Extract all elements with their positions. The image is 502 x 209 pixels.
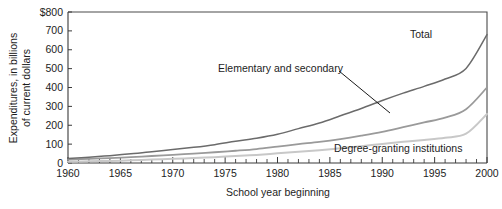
x-tick-label: 1990 bbox=[371, 167, 395, 179]
annotation-label: Degree-granting institutions bbox=[334, 142, 462, 154]
y-axis-title-line2: of current dollars bbox=[20, 49, 32, 127]
x-tick-label: 1980 bbox=[266, 167, 290, 179]
x-tick-label: 2000 bbox=[475, 167, 499, 179]
y-axis-ticks bbox=[68, 12, 72, 163]
expenditures-line-chart: 0100200300400500600700$800 1960196519701… bbox=[0, 0, 502, 209]
x-tick-label: 1970 bbox=[161, 167, 185, 179]
y-tick-label: 200 bbox=[45, 119, 63, 131]
y-tick-label: 400 bbox=[45, 81, 63, 93]
series-line-degree-granting-institutions bbox=[68, 114, 487, 162]
y-tick-labels: 0100200300400500600700$800 bbox=[40, 6, 64, 169]
x-tick-label: 1960 bbox=[56, 167, 80, 179]
x-tick-label: 1965 bbox=[109, 167, 133, 179]
y-tick-label: 700 bbox=[45, 24, 63, 36]
y-tick-label: 600 bbox=[45, 43, 63, 55]
y-tick-label: $800 bbox=[40, 6, 64, 18]
y-tick-label: 500 bbox=[45, 62, 63, 74]
annotation-label: Total bbox=[410, 28, 432, 40]
x-tick-label: 1985 bbox=[318, 167, 342, 179]
x-tick-label: 1975 bbox=[213, 167, 237, 179]
y-tick-label: 300 bbox=[45, 100, 63, 112]
x-axis-title: School year beginning bbox=[226, 186, 330, 198]
x-tick-labels: 196019651970197519801985199019952000 bbox=[56, 167, 499, 179]
series-annotations: TotalElementary and secondaryDegree-gran… bbox=[218, 28, 462, 154]
y-axis-title-line1: Expenditures, in billions bbox=[7, 33, 19, 143]
y-tick-label: 100 bbox=[45, 138, 63, 150]
chart-figure: 0100200300400500600700$800 1960196519701… bbox=[0, 0, 502, 209]
x-tick-label: 1995 bbox=[423, 167, 447, 179]
annotation-label: Elementary and secondary bbox=[218, 62, 344, 74]
